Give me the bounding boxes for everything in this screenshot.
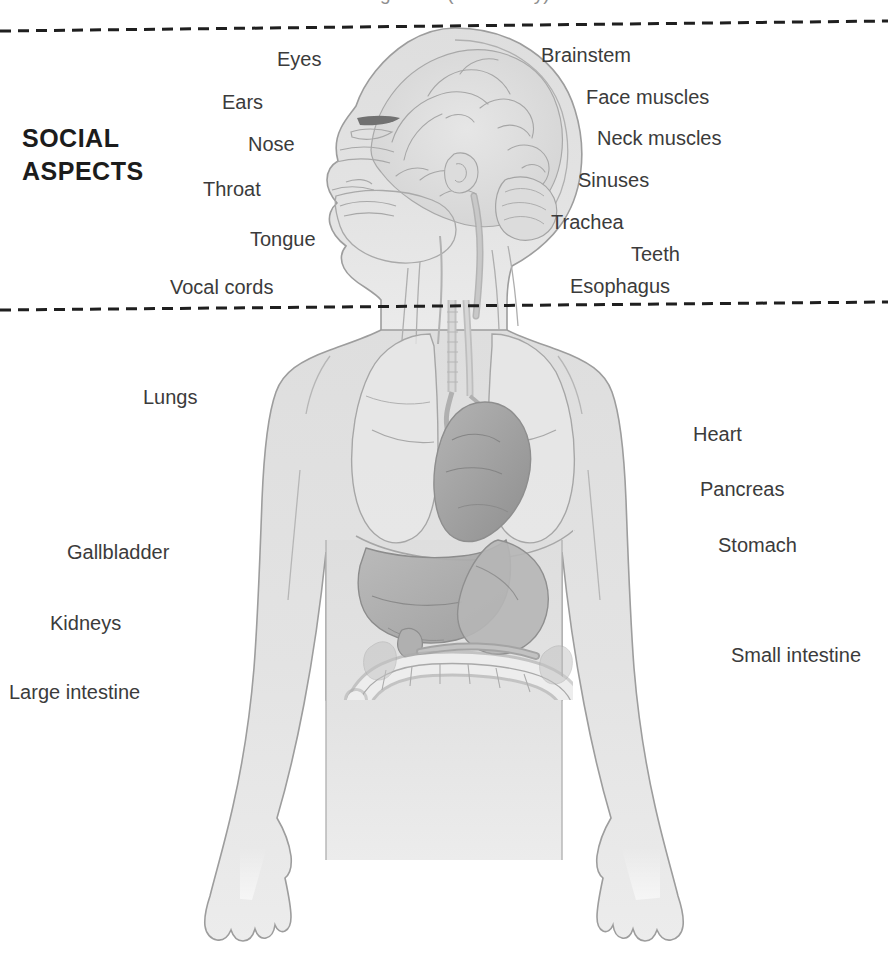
section-heading-line-2: ASPECTS xyxy=(22,155,202,188)
label-trachea: Trachea xyxy=(551,211,624,233)
label-brainstem: Brainstem xyxy=(541,44,631,66)
label-teeth: Teeth xyxy=(631,243,680,265)
lower-dashed-divider xyxy=(0,296,888,310)
label-large-intestine: Large intestine xyxy=(9,681,140,703)
label-small-intestine: Small intestine xyxy=(731,644,861,666)
label-vocal-cords: Vocal cords xyxy=(170,276,273,298)
label-heart: Heart xyxy=(693,423,742,445)
label-eyes: Eyes xyxy=(277,48,321,70)
label-lungs: Lungs xyxy=(143,386,198,408)
label-kidneys: Kidneys xyxy=(50,612,121,634)
label-face-muscles: Face muscles xyxy=(586,86,709,108)
section-heading-line-1: SOCIAL xyxy=(22,122,202,155)
label-neck-muscles: Neck muscles xyxy=(597,127,721,149)
upper-dashed-divider xyxy=(0,18,888,32)
label-tongue: Tongue xyxy=(250,228,316,250)
label-esophagus: Esophagus xyxy=(570,275,670,297)
label-nose: Nose xyxy=(248,133,295,155)
label-gallbladder: Gallbladder xyxy=(67,541,169,563)
label-pancreas: Pancreas xyxy=(700,478,785,500)
label-throat: Throat xyxy=(203,178,261,200)
section-heading-social-aspects: SOCIAL ASPECTS xyxy=(22,122,202,188)
label-sinuses: Sinuses xyxy=(578,169,649,191)
label-ears: Ears xyxy=(222,91,263,113)
label-stomach: Stomach xyxy=(718,534,797,556)
diagram-canvas: and the digestive (alimentary) tract xyxy=(0,0,888,967)
